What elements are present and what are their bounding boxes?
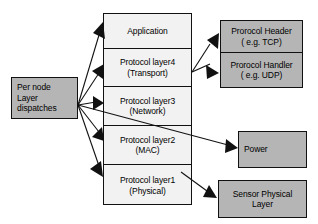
stack-cell-protocol-layer2-line2: (MAC) [135, 145, 159, 156]
protocol-stack: Application Protocol layer4 (Transport) … [103, 13, 192, 205]
dispatch-label-line1: Per node [17, 82, 51, 93]
stack-cell-application-line1: Application [127, 26, 167, 37]
stack-cell-protocol-layer2-line1: Protocol layer2 [120, 135, 175, 146]
stack-cell-application[interactable]: Application [104, 14, 191, 49]
sensor-physical-line2: Layer [252, 199, 273, 210]
arrow-dispatch-to-layer1 [78, 105, 103, 177]
node-prorocol-header[interactable]: Prorocol Header ( e.g. TCP) [220, 20, 303, 53]
stack-cell-protocol-layer2[interactable]: Protocol layer2 (MAC) [104, 126, 191, 165]
node-power[interactable]: Power [238, 131, 307, 168]
node-sensor-physical-layer[interactable]: Sensor Physical Layer [218, 180, 307, 218]
dispatch-label-line3: dispatches [17, 103, 57, 114]
stack-cell-protocol-layer1-line2: (Physical) [129, 186, 165, 197]
arrow-layer4-to-prorocol-handler [192, 64, 219, 79]
prorocol-handler-line2: ( e.g. UDP) [241, 70, 282, 81]
diagram-canvas: Per node Layer dispatches Application Pr… [0, 0, 318, 224]
dispatch-label-line2: Layer [17, 93, 38, 104]
power-line1: Power [244, 144, 268, 155]
arrow-layer4-to-prorocol-header [192, 33, 219, 72]
arrow-dispatch-to-application [78, 22, 105, 105]
stack-cell-protocol-layer3[interactable]: Protocol layer3 (Network) [104, 87, 191, 126]
prorocol-handler-line1: Prorocol Handler [230, 60, 292, 71]
prorocol-header-line1: Prorocol Header [231, 26, 291, 37]
sensor-physical-line1: Sensor Physical [233, 189, 292, 200]
stack-cell-protocol-layer1-line1: Protocol layer1 [120, 175, 175, 186]
arrow-dispatch-to-layer2 [78, 105, 104, 141]
node-per-node-layer-dispatches[interactable]: Per node Layer dispatches [11, 77, 78, 119]
stack-cell-protocol-layer4[interactable]: Protocol layer4 (Transport) [104, 49, 191, 87]
arrow-dispatch-to-layer3 [78, 96, 104, 110]
arrow-dispatch-to-layer4 [78, 64, 104, 105]
stack-cell-protocol-layer4-line2: (Transport) [127, 68, 168, 79]
stack-cell-protocol-layer4-line1: Protocol layer4 [120, 57, 175, 68]
node-prorocol-handler[interactable]: Prorocol Handler ( e.g. UDP) [220, 52, 303, 88]
stack-cell-protocol-layer3-line2: (Network) [130, 106, 166, 117]
stack-cell-protocol-layer3-line1: Protocol layer3 [120, 96, 175, 107]
prorocol-header-line2: ( e.g. TCP) [241, 37, 281, 48]
stack-cell-protocol-layer1[interactable]: Protocol layer1 (Physical) [104, 165, 191, 206]
